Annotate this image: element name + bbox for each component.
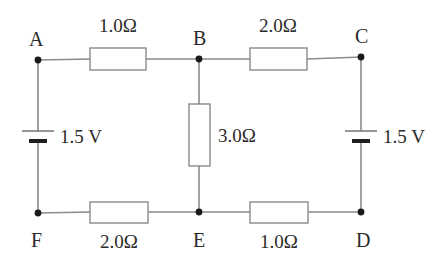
- node-dot-f: [35, 210, 42, 217]
- resistor-symbol-b-c: [250, 48, 307, 70]
- node-dot-a: [35, 57, 42, 64]
- circuit-diagram: A B C D E F 1.0Ω 2.0Ω 3.0Ω 2.0Ω 1.0Ω 1.5…: [0, 0, 446, 263]
- wire-A-to-RAB: [38, 59, 90, 60]
- node-dot-d: [358, 209, 365, 216]
- resistor-symbol-b-e: [189, 104, 210, 166]
- wire-F-to-RFE: [38, 212, 90, 213]
- resistor-symbol-a-b: [90, 48, 146, 70]
- node-dot-e: [196, 209, 203, 216]
- battery-short-plate-a-f: [29, 139, 47, 143]
- node-dot-b: [196, 56, 203, 63]
- battery-short-plate-c-d: [352, 139, 370, 143]
- node-dot-c: [358, 54, 365, 61]
- wire-RBC-to-C: [307, 57, 361, 59]
- resistor-symbol-e-d: [250, 202, 308, 223]
- resistor-symbol-f-e: [90, 202, 148, 223]
- circuit-schematic-canvas: [0, 0, 446, 263]
